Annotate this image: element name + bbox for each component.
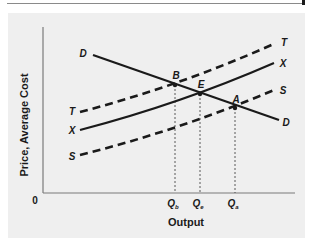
tick-qb: Qb (167, 198, 179, 210)
label-s-end: S (280, 85, 287, 96)
point-e (198, 92, 202, 96)
label-x-end: X (279, 58, 288, 69)
label-point-e: E (198, 79, 205, 90)
tick-qe: Qe (192, 198, 204, 210)
x-axis-label: Output (168, 216, 204, 228)
point-a (233, 106, 237, 110)
curve-d (93, 55, 279, 120)
chart-svg: D D T T X X S S B E A Qb Qe Qa (0, 0, 314, 247)
label-d-start: D (79, 48, 86, 59)
tick-qa: Qa (227, 198, 239, 210)
y-axis-label: Price, Average Cost (18, 73, 30, 176)
point-b (173, 83, 177, 87)
label-t-start: T (69, 106, 76, 117)
label-d-end: D (282, 117, 289, 128)
label-point-a: A (231, 94, 239, 105)
label-t-end: T (281, 37, 288, 48)
label-x-start: X (68, 125, 77, 136)
label-point-b: B (172, 70, 179, 81)
label-s-start: S (69, 151, 76, 162)
origin-label: 0 (32, 195, 38, 206)
